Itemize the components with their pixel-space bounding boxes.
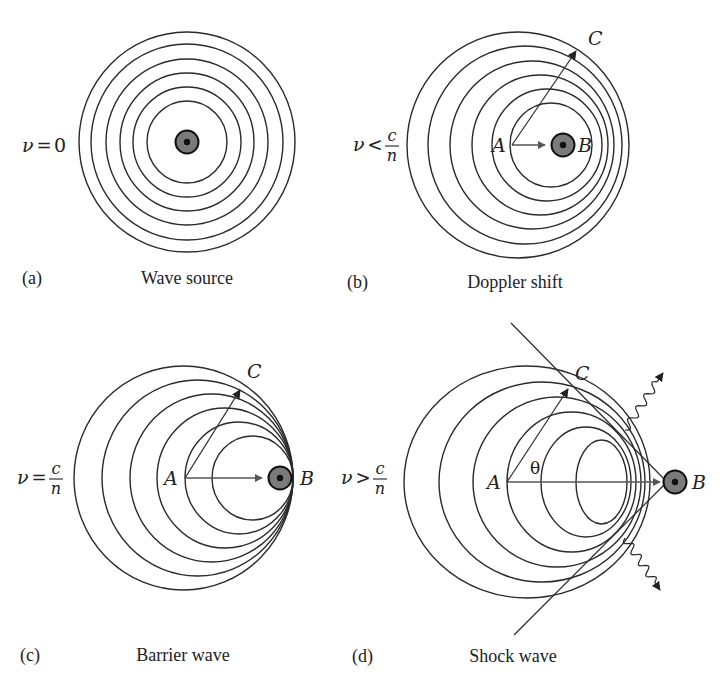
particle-core-icon	[277, 475, 283, 481]
angle-theta-label: θ	[530, 458, 540, 478]
fraction-numerator: c	[52, 459, 61, 478]
velocity-symbol: ν	[22, 134, 34, 156]
fraction-denominator: n	[387, 146, 397, 165]
point-label-a: A	[490, 134, 506, 156]
panel-a-wave-source: ν=0(a)Wave source	[22, 32, 295, 289]
panel-tag: (b)	[347, 272, 368, 293]
fraction-denominator: n	[51, 479, 61, 498]
relation-operator: =	[36, 135, 51, 156]
panel-caption: Doppler shift	[467, 272, 562, 292]
point-label-c: C	[588, 27, 603, 49]
point-label-c: C	[247, 360, 262, 382]
velocity-condition: ν=0	[22, 134, 66, 156]
particle-core-icon	[184, 139, 190, 145]
cherenkov-radiation-arrow-icon	[623, 538, 660, 590]
panel-tag: (c)	[20, 645, 40, 666]
cherenkov-radiation-arrow-icon	[625, 373, 663, 430]
velocity-condition: ν>cn	[341, 459, 387, 498]
panel-d-shock-wave: ABCθν>cn(d)Shock wave	[341, 323, 706, 667]
velocity-symbol: ν	[341, 466, 353, 488]
panel-tag: (a)	[22, 268, 42, 289]
relation-operator: >	[355, 467, 370, 488]
panel-caption: Shock wave	[469, 646, 556, 666]
particle-core-icon	[560, 142, 566, 148]
point-label-c: C	[575, 362, 590, 384]
fraction-denominator: n	[375, 479, 385, 498]
velocity-symbol: ν	[353, 133, 365, 155]
panel-b-doppler-shift: ABCν<cn(b)Doppler shift	[347, 27, 629, 293]
fraction-numerator: c	[376, 459, 385, 478]
panel-caption: Wave source	[141, 268, 233, 288]
particle-core-icon	[672, 479, 678, 485]
relation-operator: =	[31, 467, 46, 488]
cherenkov-wave-figure: ν=0(a)Wave source ABCν<cn(b)Doppler shif…	[0, 0, 724, 685]
relation-operator: <	[367, 134, 382, 155]
condition-value: 0	[54, 134, 66, 156]
velocity-condition: ν=cn	[17, 459, 63, 498]
point-label-b: B	[691, 471, 706, 493]
panel-caption: Barrier wave	[136, 645, 229, 665]
shock-front-lower	[514, 482, 667, 635]
velocity-symbol: ν	[17, 466, 29, 488]
panel-c-barrier-wave: ABCν=cn(c)Barrier wave	[17, 360, 314, 666]
light-ray-arrow	[512, 51, 576, 145]
point-label-a: A	[485, 471, 501, 493]
panel-tag: (d)	[352, 646, 373, 667]
velocity-condition: ν<cn	[353, 126, 399, 165]
light-ray-arrow	[185, 390, 240, 478]
fraction-numerator: c	[388, 126, 397, 145]
point-label-a: A	[162, 467, 178, 489]
point-label-b: B	[577, 134, 592, 156]
point-label-b: B	[299, 467, 314, 489]
